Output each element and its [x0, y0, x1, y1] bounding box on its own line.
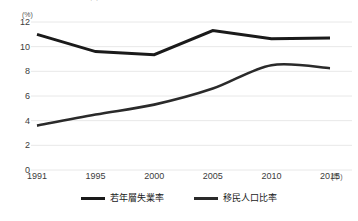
y-axis-tick-label: 10 — [8, 42, 30, 52]
y-axis-tick-label: 6 — [8, 91, 30, 101]
x-axis-tick-label: 2000 — [131, 171, 177, 181]
plot-area — [0, 0, 358, 221]
y-axis-tick-label: 4 — [8, 116, 30, 126]
legend-line-swatch — [81, 197, 105, 200]
x-axis-tick-label: 2005 — [190, 171, 236, 181]
legend-label: 移民人口比率 — [223, 193, 277, 204]
x-axis-tick-label: 2015 — [307, 171, 353, 181]
x-axis-tick-label: 1991 — [14, 171, 60, 181]
y-axis-tick-label: 12 — [8, 17, 30, 27]
legend-label: 若年層失業率 — [110, 193, 164, 204]
series-line-2 — [37, 64, 330, 125]
line-chart: 若年層失業率と移民人口比率の推移 (%) (年) 024681012 19911… — [0, 0, 358, 221]
legend-item-1[interactable]: 若年層失業率 — [81, 193, 164, 204]
x-axis-tick-label: 1995 — [73, 171, 119, 181]
chart-legend: 若年層失業率移民人口比率 — [0, 193, 358, 204]
legend-item-2[interactable]: 移民人口比率 — [194, 193, 277, 204]
x-axis-tick-label: 2010 — [248, 171, 294, 181]
legend-line-swatch — [194, 197, 218, 200]
y-axis-tick-label: 8 — [8, 66, 30, 76]
y-axis-tick-label: 2 — [8, 140, 30, 150]
series-line-1 — [37, 31, 330, 55]
